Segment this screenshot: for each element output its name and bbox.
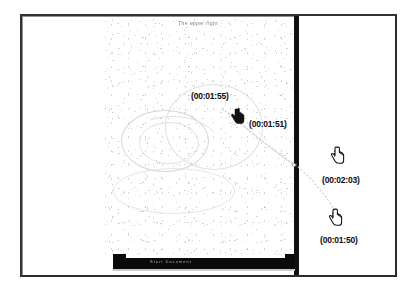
- faint-shape-ellipse: [113, 168, 235, 214]
- screenshot-stage: The upper right Start Document (00:01:55…: [0, 0, 411, 292]
- document-title: The upper right: [103, 20, 293, 26]
- timestamp-label-00-01-51: (00:01:51): [249, 119, 287, 129]
- timestamp-label-00-01-55: (00:01:55): [191, 91, 229, 101]
- document-page[interactable]: [103, 18, 293, 256]
- timestamp-label-00-01-50: (00:01:50): [320, 235, 358, 245]
- taskbar-underline: [113, 269, 295, 271]
- panel-divider: [294, 16, 299, 275]
- taskbar-end-block: [285, 254, 295, 269]
- timestamp-label-00-02-03: (00:02:03): [322, 175, 360, 185]
- taskbar-label: Start Document: [150, 259, 260, 265]
